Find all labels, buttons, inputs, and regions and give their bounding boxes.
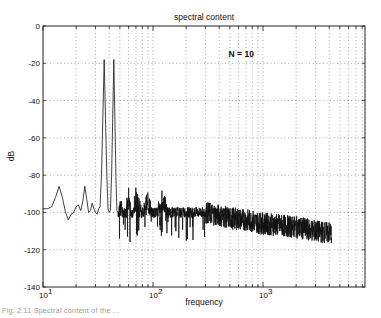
grid-lines [43,26,365,287]
n-annotation: N = 10 [229,49,255,59]
svg-text:2: 2 [158,287,163,296]
svg-text:-20: -20 [28,59,40,68]
svg-text:0: 0 [36,22,41,31]
y-axis-ticks: 0-20-40-60-80-100-120-140 [24,22,365,292]
svg-text:-140: -140 [24,283,41,292]
y-axis-label: dB [6,150,16,161]
svg-text:-80: -80 [28,171,40,180]
svg-text:-60: -60 [28,134,40,143]
chart-title: spectral content [174,12,235,22]
svg-text:-40: -40 [28,97,40,106]
spectral-content-chart: 101102103 0-20-40-60-80-100-120-140 spec… [0,0,381,318]
svg-text:3: 3 [268,287,273,296]
svg-text:-120: -120 [24,246,41,255]
x-axis-label: frequency [185,297,223,307]
spectrum-trace [43,60,332,244]
plot-frame [43,26,365,287]
x-axis-ticks: 101102103 [39,26,362,300]
svg-text:1: 1 [48,287,53,296]
svg-text:-100: -100 [24,208,41,217]
figure-caption: Fig. 2.11 Spectral content of the ... [2,307,120,314]
